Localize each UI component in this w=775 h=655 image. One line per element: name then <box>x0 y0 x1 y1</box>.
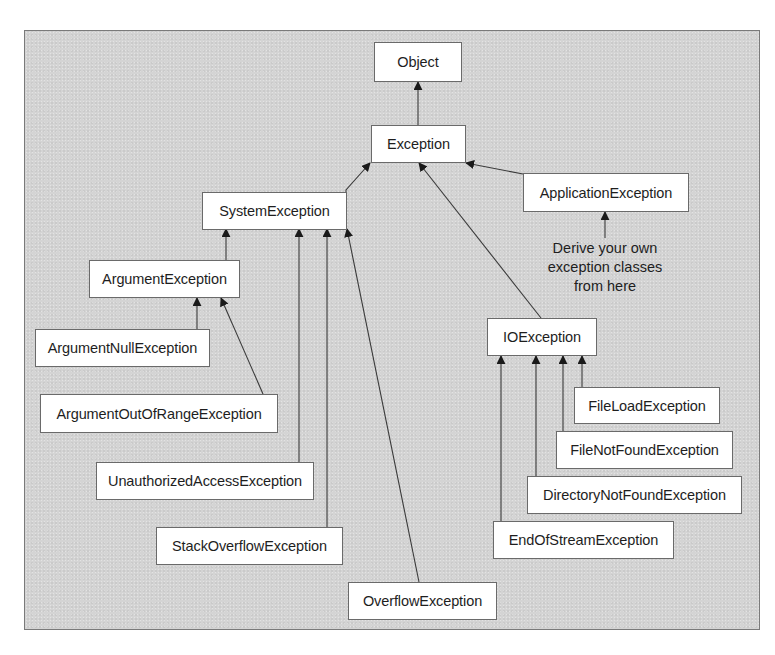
annotation-line-2: exception classes <box>525 258 685 277</box>
node-system-exception: SystemException <box>202 192 347 230</box>
node-directory-not-found-exception: DirectoryNotFoundException <box>527 476 742 514</box>
node-exception: Exception <box>371 125 466 163</box>
node-io-exception: IOException <box>487 318 597 356</box>
node-argument-null-exception: ArgumentNullException <box>35 329 210 367</box>
node-object: Object <box>374 42 462 82</box>
node-file-not-found-exception: FileNotFoundException <box>556 431 733 469</box>
annotation-derive-note: Derive your own exception classes from h… <box>525 239 685 296</box>
node-application-exception: ApplicationException <box>523 173 689 212</box>
node-end-of-stream-exception: EndOfStreamException <box>493 521 674 559</box>
node-stack-overflow-exception: StackOverflowException <box>156 527 343 565</box>
node-overflow-exception: OverflowException <box>348 582 497 620</box>
annotation-line-3: from here <box>525 277 685 296</box>
node-unauthorized-access-exception: UnauthorizedAccessException <box>96 462 314 500</box>
node-file-load-exception: FileLoadException <box>574 387 720 424</box>
node-argument-out-of-range-exception: ArgumentOutOfRangeException <box>40 394 278 433</box>
annotation-line-1: Derive your own <box>525 239 685 258</box>
node-argument-exception: ArgumentException <box>89 260 240 298</box>
